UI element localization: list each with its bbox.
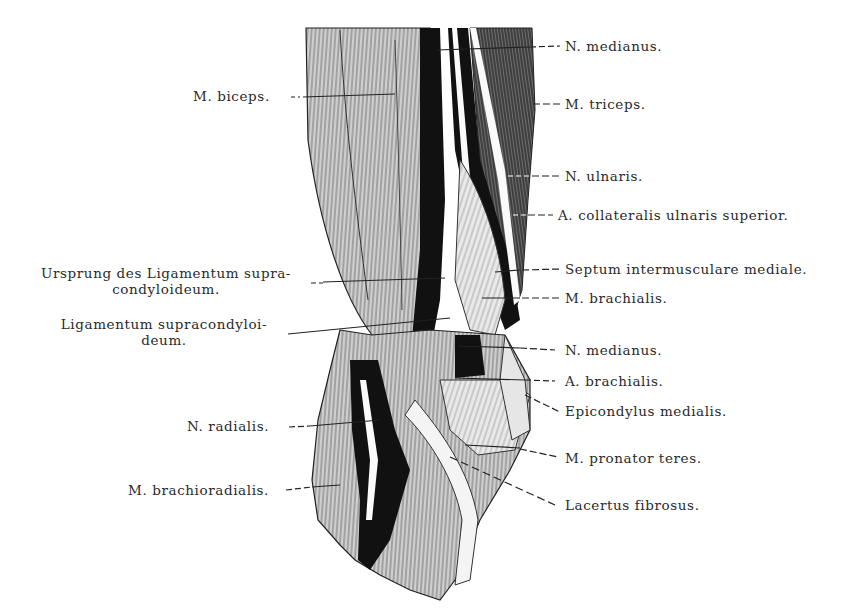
label-epicondylus-medialis: Epicondylus medialis. xyxy=(565,403,727,419)
label-line: Ligamentum supracondyloi- xyxy=(44,316,284,332)
label-n-ulnaris: N. ulnaris. xyxy=(565,168,643,184)
label-m-triceps: M. triceps. xyxy=(565,96,646,112)
label-lacertus-fibrosus: Lacertus fibrosus. xyxy=(565,497,700,513)
label-septum-intermusculare-mediale: Septum intermusculare mediale. xyxy=(565,261,807,277)
label-line: Ursprung des Ligamentum supra- xyxy=(26,265,306,281)
label-m-brachioradialis: M. brachioradialis. xyxy=(128,482,269,498)
anatomy-illustration xyxy=(0,0,845,614)
label-ligamentum-supracondyloideum: Ligamentum supracondyloi- deum. xyxy=(44,316,284,348)
label-m-pronator-teres: M. pronator teres. xyxy=(565,450,702,466)
label-a-brachialis: A. brachialis. xyxy=(565,373,663,389)
label-m-brachialis: M. brachialis. xyxy=(565,290,667,306)
label-a-collateralis-ulnaris-superior: A. collateralis ulnaris superior. xyxy=(558,207,788,223)
label-n-radialis: N. radialis. xyxy=(187,418,269,434)
label-line: condyloideum. xyxy=(26,281,306,297)
label-line: deum. xyxy=(44,332,284,348)
label-n-medianus-low: N. medianus. xyxy=(565,342,662,358)
forearm xyxy=(312,330,530,600)
label-biceps: M. biceps. xyxy=(193,88,270,104)
label-n-medianus-top: N. medianus. xyxy=(565,38,662,54)
label-ursprung-ligamentum: Ursprung des Ligamentum supra- condyloid… xyxy=(26,265,306,297)
